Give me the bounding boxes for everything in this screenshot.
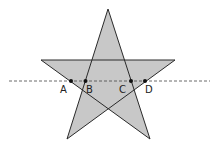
point-label-d: D xyxy=(145,84,153,95)
point-a xyxy=(69,79,73,83)
point-label-b: B xyxy=(86,84,93,95)
point-label-c: C xyxy=(119,84,126,95)
point-c xyxy=(129,79,133,83)
point-b xyxy=(84,79,88,83)
point-label-a: A xyxy=(60,84,67,95)
pentagram-diagram: ABCD xyxy=(0,0,211,151)
pentagram-star xyxy=(41,9,175,139)
point-d xyxy=(143,79,147,83)
